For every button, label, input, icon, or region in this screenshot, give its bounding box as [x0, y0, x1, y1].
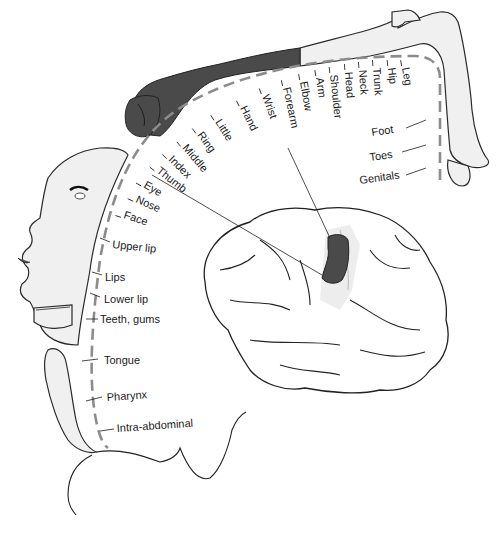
- label-elbow: Elbow: [298, 80, 315, 112]
- label-toes: Toes: [369, 148, 394, 163]
- label-little: Little: [213, 117, 235, 143]
- label-wrist: Wrist: [260, 93, 280, 120]
- label-lips: Lips: [105, 271, 126, 283]
- label-foot: Foot: [371, 123, 394, 138]
- label-hand: Hand: [238, 104, 260, 133]
- label-neck: Neck: [357, 69, 371, 95]
- leg-figure: [300, 10, 489, 186]
- label-head: Head: [343, 71, 357, 98]
- label-forearm: Forearm: [281, 86, 301, 129]
- label-pharynx: Pharynx: [106, 388, 148, 403]
- right-labels: Foot Toes Genitals: [359, 120, 426, 186]
- label-tongue: Tongue: [104, 354, 140, 366]
- label-face: Face: [122, 208, 149, 227]
- brain-figure: [204, 208, 448, 393]
- chest-outline: [68, 455, 92, 515]
- label-intra-abdominal: Intra-abdominal: [116, 417, 193, 434]
- homunculus-diagram: Leg Hip Trunk Neck Head Shoulder Arm Elb…: [0, 0, 499, 537]
- label-shoulder: Shoulder: [328, 74, 345, 119]
- label-upper-lip: Upper lip: [112, 238, 157, 255]
- label-teeth-gums: Teeth, gums: [100, 313, 160, 325]
- label-leg: Leg: [400, 66, 415, 86]
- arm-hand-figure: [125, 48, 300, 137]
- label-trunk: Trunk: [371, 67, 385, 96]
- label-hip: Hip: [386, 67, 400, 85]
- label-lower-lip: Lower lip: [104, 293, 148, 305]
- label-arm: Arm: [314, 77, 329, 99]
- label-genitals: Genitals: [359, 168, 401, 186]
- label-ring: Ring: [195, 129, 218, 154]
